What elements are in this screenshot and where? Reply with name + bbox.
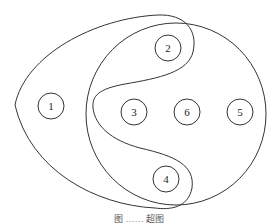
hypergraph-diagram: 1 2 3 6 5 4 图 …… 超图 xyxy=(0,0,278,224)
svg-text:4: 4 xyxy=(163,173,169,185)
svg-text:2: 2 xyxy=(165,42,171,54)
svg-text:3: 3 xyxy=(131,106,137,118)
node-5: 5 xyxy=(227,99,253,125)
figure-caption: 图 …… 超图 xyxy=(114,213,164,224)
node-3: 3 xyxy=(121,99,147,125)
node-1: 1 xyxy=(38,93,64,119)
node-6: 6 xyxy=(174,99,200,125)
node-4: 4 xyxy=(153,166,179,192)
svg-text:1: 1 xyxy=(48,100,54,112)
svg-text:6: 6 xyxy=(184,106,190,118)
node-2: 2 xyxy=(155,35,181,61)
svg-text:5: 5 xyxy=(237,106,243,118)
